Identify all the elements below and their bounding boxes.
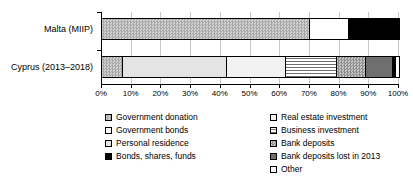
bar-segment-bank-lost <box>366 57 393 77</box>
bar-segment-gov-bonds <box>310 19 349 39</box>
bar-malta-miip <box>101 18 398 40</box>
bar-segment-gov-donation <box>102 19 310 39</box>
x-axis-tick-label: 40% <box>212 89 228 99</box>
x-axis-tick-label: 70% <box>301 89 317 99</box>
bar-segment-business <box>286 57 336 77</box>
x-axis-tick-label: 0% <box>95 89 107 99</box>
bar-segment-bank-deposits <box>337 57 367 77</box>
x-axis-tick <box>160 84 161 88</box>
y-axis-label-1: Cyprus (2013–2018) <box>11 62 93 73</box>
x-axis-tick <box>398 84 399 88</box>
legend-label: Government bonds <box>116 125 188 135</box>
legend-label: Bank deposits lost in 2013 <box>281 151 380 161</box>
legend-swatch-real-estate-icon <box>270 114 277 121</box>
y-axis-tick <box>97 50 101 51</box>
x-axis-tick-label: 80% <box>331 89 347 99</box>
legend-label: Other <box>281 164 302 174</box>
x-axis-tick <box>339 84 340 88</box>
legend-label: Bank deposits <box>281 138 334 148</box>
legend-label: Personal residence <box>116 138 189 148</box>
legend-item-business[interactable]: Business investment <box>270 124 413 136</box>
bar-segment-gov-donation <box>102 57 123 77</box>
legend-label: Bonds, shares, funds <box>116 151 196 161</box>
x-axis-tick <box>250 84 251 88</box>
y-axis-labels: Malta (MIIP)Cyprus (2013–2018) <box>0 12 97 84</box>
x-axis-tick-label: 20% <box>152 89 168 99</box>
legend-swatch-other-icon <box>270 166 277 173</box>
legend-swatch-business-icon <box>270 127 277 134</box>
legend-column-right: Real estate investmentBusiness investmen… <box>270 111 413 176</box>
legend-item-gov-donation[interactable]: Government donation <box>105 111 245 123</box>
legend-swatch-gov-bonds-icon <box>105 127 112 134</box>
legend-swatch-bank-deposits-icon <box>270 140 277 147</box>
x-axis-tick <box>220 84 221 88</box>
legend-item-bank-deposits[interactable]: Bank deposits <box>270 137 413 149</box>
bar-segment-bonds-shares <box>349 19 399 39</box>
bar-segment-other <box>396 57 399 77</box>
stacked-bar <box>101 56 400 78</box>
stacked-bar <box>101 18 400 40</box>
x-axis-tick <box>309 84 310 88</box>
legend-item-gov-bonds[interactable]: Government bonds <box>105 124 245 136</box>
legend-column-left: Government donationGovernment bondsPerso… <box>105 111 245 163</box>
x-axis-tick <box>190 84 191 88</box>
x-axis-tick <box>131 84 132 88</box>
plot-area <box>101 12 398 84</box>
x-axis-tick <box>368 84 369 88</box>
x-axis-tick-label: 50% <box>241 89 257 99</box>
x-axis-tick-label: 30% <box>182 89 198 99</box>
legend-label: Real estate investment <box>281 112 367 122</box>
legend-swatch-bonds-shares-icon <box>105 153 112 160</box>
bar-cyprus-2013-2018 <box>101 56 398 78</box>
x-axis-tick-label: 90% <box>360 89 376 99</box>
x-axis-tick-label: 10% <box>123 89 139 99</box>
bar-segment-personal-residence <box>123 57 227 77</box>
legend-swatch-personal-residence-icon <box>105 140 112 147</box>
x-axis-tick <box>279 84 280 88</box>
legend-item-other[interactable]: Other <box>270 163 413 175</box>
y-axis-tick <box>97 12 101 13</box>
legend-item-bonds-shares[interactable]: Bonds, shares, funds <box>105 150 245 162</box>
legend-swatch-gov-donation-icon <box>105 114 112 121</box>
legend-label: Business investment <box>281 125 359 135</box>
bar-segment-real-estate <box>227 57 286 77</box>
x-axis-tick <box>101 84 102 88</box>
y-axis-label-0: Malta (MIIP) <box>44 24 93 35</box>
legend-item-personal-residence[interactable]: Personal residence <box>105 137 245 149</box>
legend-item-real-estate[interactable]: Real estate investment <box>270 111 413 123</box>
x-axis-tick-label: 60% <box>271 89 287 99</box>
legend-item-bank-lost[interactable]: Bank deposits lost in 2013 <box>270 150 413 162</box>
legend-swatch-bank-lost-icon <box>270 153 277 160</box>
x-axis-tick-label: 100% <box>388 89 408 99</box>
legend-label: Government donation <box>116 112 198 122</box>
